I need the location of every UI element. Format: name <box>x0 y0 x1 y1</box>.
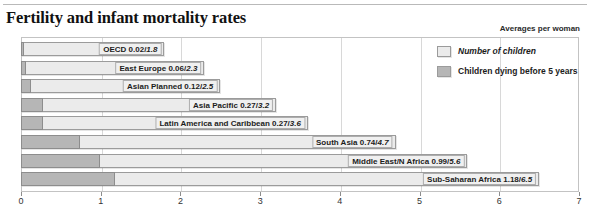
chart-figure: Fertility and infant mortality rates Ave… <box>0 0 590 217</box>
bar-label: Sub-Saharan Africa 1.18/6.5 <box>423 173 536 185</box>
legend-item[interactable]: Number of children <box>437 44 536 58</box>
x-tick-label: 6 <box>497 196 502 206</box>
bar-label-main: South Asia 0.74/ <box>316 138 378 147</box>
bar-label: Asian Planned 0.12/2.5 <box>123 80 217 92</box>
x-tick-label: 0 <box>18 196 23 206</box>
legend-label: Number of children <box>458 46 536 56</box>
bar-segment-deaths <box>21 154 100 168</box>
bar-row[interactable]: South Asia 0.74/4.7 <box>21 135 579 149</box>
bar-label: OECD 0.02/1.8 <box>99 43 161 55</box>
bar-label-fertility: 1.8 <box>146 45 157 54</box>
x-tick-label: 3 <box>258 196 263 206</box>
x-tick-label: 1 <box>98 196 103 206</box>
page-title: Fertility and infant mortality rates <box>6 8 246 28</box>
bar-label-fertility: 2.5 <box>202 82 213 91</box>
bar-label-main: Asia Pacific 0.27/ <box>193 101 258 110</box>
bar-label-main: Sub-Saharan Africa 1.18/ <box>427 175 521 184</box>
legend-swatch-icon <box>437 66 451 77</box>
legend-label: Children dying before 5 years <box>458 66 578 76</box>
bar-segment-deaths <box>21 172 115 186</box>
x-tick-label: 5 <box>417 196 422 206</box>
bar-label-fertility: 3.6 <box>290 119 301 128</box>
bar-row[interactable]: Middle East/N Africa 0.99/5.6 <box>21 154 579 168</box>
bar-row[interactable]: Sub-Saharan Africa 1.18/6.5 <box>21 172 579 186</box>
bar-row[interactable]: Latin America and Caribbean 0.27/3.6 <box>21 116 579 130</box>
bar-label: East Europe 0.06/2.3 <box>116 62 202 74</box>
bar-label: Asia Pacific 0.27/3.2 <box>189 99 273 111</box>
x-tick-label: 7 <box>576 196 581 206</box>
bar-label-fertility: 5.6 <box>449 157 460 166</box>
bar-label-fertility: 2.3 <box>186 64 197 73</box>
bar-label-main: OECD 0.02/ <box>103 45 146 54</box>
bar-label: Latin America and Caribbean 0.27/3.6 <box>155 117 305 129</box>
bar-label-main: East Europe 0.06/ <box>120 64 187 73</box>
bar-segment-deaths <box>21 135 80 149</box>
bar-segment-deaths <box>21 61 26 75</box>
bar-label-fertility: 4.7 <box>378 138 389 147</box>
legend-item[interactable]: Children dying before 5 years <box>437 64 578 78</box>
bar-label-main: Latin America and Caribbean 0.27/ <box>159 119 289 128</box>
bar-segment-deaths <box>21 42 24 56</box>
bar-segment-deaths <box>21 79 31 93</box>
x-tick-label: 4 <box>337 196 342 206</box>
legend-swatch-icon <box>437 46 451 57</box>
bar-segment-deaths <box>21 98 43 112</box>
bar-segment-deaths <box>21 116 43 130</box>
bar-label-main: Middle East/N Africa 0.99/ <box>352 157 449 166</box>
chart-legend: Number of childrenChildren dying before … <box>437 44 577 89</box>
x-tick-label: 2 <box>178 196 183 206</box>
bar-label-fertility: 6.5 <box>521 175 532 184</box>
bar-label: South Asia 0.74/4.7 <box>312 136 393 148</box>
bar-row[interactable]: Asia Pacific 0.27/3.2 <box>21 98 579 112</box>
bar-label-fertility: 3.2 <box>258 101 269 110</box>
header-divider <box>3 4 587 5</box>
bar-label-main: Asian Planned 0.12/ <box>127 82 202 91</box>
axis-units-note: Averages per woman <box>500 24 580 33</box>
x-axis: 01234567 <box>21 192 579 214</box>
bar-label: Middle East/N Africa 0.99/5.6 <box>348 155 464 167</box>
